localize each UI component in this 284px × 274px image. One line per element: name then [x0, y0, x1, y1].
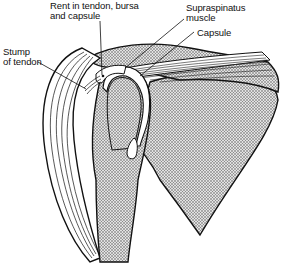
- humeral-head: [107, 78, 141, 150]
- label-rent-in-tendon: Rent in tendon, bursa and capsule: [50, 1, 139, 21]
- scapula: [130, 68, 278, 235]
- shoulder-illustration: [0, 0, 284, 274]
- shoulder-diagram: Rent in tendon, bursa and capsule Supras…: [0, 0, 284, 274]
- leader-rent: [100, 21, 102, 75]
- deltoid-muscle: [43, 48, 100, 262]
- label-capsule: Capsule: [197, 28, 231, 38]
- label-stump-of-tendon: Stump of tendon: [3, 47, 42, 67]
- label-supraspinatus-muscle: Supraspinatus muscle: [186, 3, 245, 23]
- rent-point: [102, 75, 105, 78]
